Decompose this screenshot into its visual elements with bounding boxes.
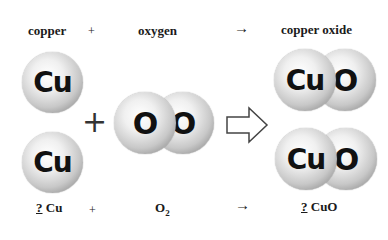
cu-symbol: Cu	[287, 143, 325, 176]
cu-symbol: Cu	[286, 64, 324, 97]
coefficient-blank-2[interactable]: ?	[301, 199, 308, 214]
reaction-arrow: →	[234, 20, 249, 37]
o-atom-left: O	[114, 92, 176, 154]
o-symbol: O	[333, 63, 358, 98]
cu-symbol: Cu	[33, 66, 71, 99]
equation-plus: +	[89, 203, 96, 218]
product-copper-oxide-label: copper oxide	[281, 22, 352, 38]
hollow-arrow-icon	[225, 106, 271, 146]
o-symbol: O	[133, 106, 158, 141]
equation-product: ? CuO	[301, 199, 337, 215]
reactant-oxygen-label: oxygen	[138, 23, 177, 39]
equation-reactant1: ? Cu	[36, 200, 62, 216]
cu-symbol: Cu	[33, 146, 71, 179]
cuo-bottom-cu-atom: Cu	[275, 128, 337, 190]
cu-atom-bottom: Cu	[22, 132, 83, 193]
cuo-top-cu-atom: Cu	[274, 49, 336, 111]
equation-cuo: CuO	[311, 199, 338, 214]
subscript-2: 2	[165, 208, 170, 218]
equation-o2: O2	[155, 200, 170, 218]
o-symbol: O	[334, 142, 359, 177]
o-base: O	[155, 200, 165, 215]
plus-sign: +	[88, 24, 95, 39]
reactant-copper-label: copper	[28, 23, 66, 39]
plus-sign-large: +	[82, 104, 107, 139]
equation-cu: Cu	[46, 200, 63, 215]
equation-arrow: →	[235, 197, 250, 214]
coefficient-blank-1[interactable]: ?	[36, 200, 43, 215]
cu-atom-top: Cu	[22, 52, 83, 113]
